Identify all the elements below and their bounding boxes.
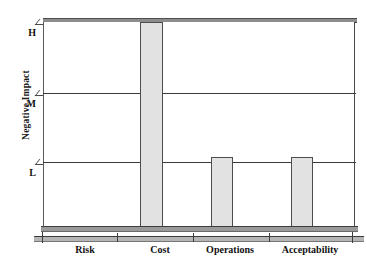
y-tick-label-low: L xyxy=(22,167,36,178)
x-label-operations: Operations xyxy=(190,244,270,255)
gridline-medium xyxy=(43,93,356,94)
x-label-cost: Cost xyxy=(125,244,195,255)
bar-acceptability xyxy=(291,157,313,227)
x-tick-3 xyxy=(269,233,270,242)
x-label-acceptability: Acceptability xyxy=(263,244,357,255)
bar-chart-figure: Negative Impact H M L Risk Cost Operatio… xyxy=(0,0,367,263)
x-tick-1 xyxy=(117,233,118,242)
bar-operations xyxy=(211,157,233,227)
plot-floor-face xyxy=(41,226,358,232)
x-tick-4 xyxy=(352,232,353,243)
x-axis-ruler xyxy=(34,236,364,242)
y-tick-label-medium: M xyxy=(22,98,36,109)
y-tick-label-high: H xyxy=(22,27,36,38)
bar-cost xyxy=(140,22,163,227)
x-label-risk: Risk xyxy=(50,244,120,255)
x-tick-0 xyxy=(42,232,43,243)
x-tick-2 xyxy=(193,233,194,242)
